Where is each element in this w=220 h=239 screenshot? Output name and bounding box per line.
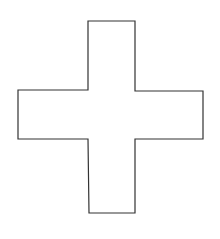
diagram-canvas bbox=[0, 0, 220, 239]
cross-shape bbox=[18, 21, 203, 213]
